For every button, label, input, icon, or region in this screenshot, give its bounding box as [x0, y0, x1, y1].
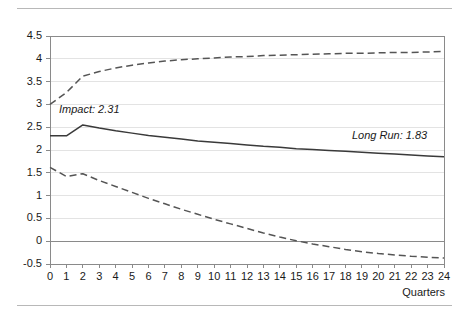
chart-figure: 4.543.532.521.510.50-0.5 012345678910111… [0, 0, 469, 320]
gridlines-group [50, 36, 444, 264]
series-line-upper-confidence-band [50, 52, 444, 105]
x-axis-title: Quarters [402, 286, 445, 298]
y-tick-label: 0 [12, 234, 42, 246]
series-line-lower-confidence-band [50, 167, 444, 258]
y-tick-label: 2.5 [12, 120, 42, 132]
y-tick-label: 4 [12, 52, 42, 64]
x-tick-label: 24 [432, 270, 456, 282]
y-tick-label: 1.5 [12, 166, 42, 178]
y-tick-label: 3.5 [12, 75, 42, 87]
y-tick-label: 1 [12, 189, 42, 201]
y-tick-label: 3 [12, 97, 42, 109]
y-tick-label: 0.5 [12, 211, 42, 223]
y-tick-label: 4.5 [12, 29, 42, 41]
series-group [50, 52, 444, 259]
annotation-long-run: Long Run: 1.83 [352, 129, 427, 141]
y-tick-label: 2 [12, 143, 42, 155]
annotation-impact: Impact: 2.31 [59, 103, 120, 115]
y-tick-label: -0.5 [12, 257, 42, 269]
